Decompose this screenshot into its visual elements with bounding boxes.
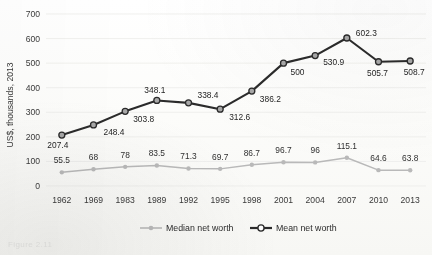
x-tick-label: 1969 bbox=[84, 195, 103, 205]
data-label: 248.4 bbox=[104, 127, 125, 137]
data-point bbox=[60, 170, 64, 174]
data-label: 207.4 bbox=[47, 140, 68, 150]
data-label: 96.7 bbox=[275, 145, 292, 155]
data-label: 348.1 bbox=[144, 85, 165, 95]
data-label: 71.3 bbox=[180, 151, 197, 161]
series-mean-net-worth bbox=[59, 35, 413, 138]
figure-caption: Figure 2.11 bbox=[8, 240, 52, 249]
data-label: 96 bbox=[311, 145, 321, 155]
data-point bbox=[122, 108, 128, 114]
x-tick-label: 1998 bbox=[242, 195, 261, 205]
data-label: 505.7 bbox=[367, 68, 388, 78]
x-tick-label: 2010 bbox=[369, 195, 388, 205]
data-point bbox=[312, 53, 318, 59]
x-tick-label: 1989 bbox=[147, 195, 166, 205]
data-point bbox=[407, 58, 413, 64]
data-point bbox=[313, 160, 317, 164]
data-point bbox=[344, 35, 350, 41]
data-point bbox=[281, 160, 285, 164]
data-point bbox=[154, 97, 160, 103]
y-axis-ticks: 0100200300400500600700 bbox=[26, 9, 41, 191]
y-tick-label: 0 bbox=[35, 181, 40, 191]
data-label: 83.5 bbox=[149, 148, 166, 158]
data-label: 500 bbox=[291, 67, 305, 77]
data-label: 55.5 bbox=[54, 155, 71, 165]
data-point bbox=[408, 168, 412, 172]
legend-label: Median net worth bbox=[166, 223, 234, 233]
data-label: 63.8 bbox=[402, 153, 419, 163]
data-point bbox=[91, 167, 95, 171]
legend-marker bbox=[258, 225, 264, 231]
x-tick-label: 2013 bbox=[401, 195, 420, 205]
data-point bbox=[155, 163, 159, 167]
x-tick-label: 1983 bbox=[116, 195, 135, 205]
y-tick-label: 500 bbox=[26, 58, 41, 68]
data-label: 508.7 bbox=[404, 67, 425, 77]
x-tick-label: 1992 bbox=[179, 195, 198, 205]
data-point bbox=[281, 60, 287, 66]
legend-marker bbox=[149, 226, 154, 231]
data-point bbox=[250, 162, 254, 166]
series-median-net-worth bbox=[60, 156, 413, 175]
data-label: 69.7 bbox=[212, 152, 229, 162]
data-point bbox=[186, 166, 190, 170]
chart-legend: Median net worthMean net worth bbox=[140, 223, 337, 233]
data-label: 86.7 bbox=[244, 148, 261, 158]
x-tick-label: 1962 bbox=[52, 195, 71, 205]
y-tick-label: 300 bbox=[26, 107, 41, 117]
data-point bbox=[217, 106, 223, 112]
data-label: 602.3 bbox=[356, 28, 377, 38]
legend-item[interactable]: Mean net worth bbox=[250, 223, 337, 233]
x-tick-label: 2004 bbox=[306, 195, 325, 205]
data-point bbox=[186, 100, 192, 106]
data-label: 338.4 bbox=[198, 90, 219, 100]
data-label: 64.6 bbox=[370, 153, 387, 163]
data-label: 78 bbox=[121, 150, 131, 160]
legend-item[interactable]: Median net worth bbox=[140, 223, 234, 233]
data-point bbox=[249, 88, 255, 94]
x-tick-label: 2001 bbox=[274, 195, 293, 205]
data-point bbox=[91, 122, 97, 128]
y-tick-label: 100 bbox=[26, 156, 41, 166]
x-tick-label: 1995 bbox=[211, 195, 230, 205]
x-tick-label: 2007 bbox=[337, 195, 356, 205]
data-point bbox=[218, 167, 222, 171]
data-label: 312.6 bbox=[229, 112, 250, 122]
data-point bbox=[376, 168, 380, 172]
data-point bbox=[123, 165, 127, 169]
y-tick-label: 600 bbox=[26, 34, 41, 44]
data-label: 303.8 bbox=[133, 114, 154, 124]
legend-label: Mean net worth bbox=[276, 223, 337, 233]
y-axis-title: US$, thousands, 2013 bbox=[5, 62, 15, 147]
y-tick-label: 200 bbox=[26, 132, 41, 142]
data-label: 68 bbox=[89, 152, 99, 162]
data-label: 115.1 bbox=[337, 141, 358, 151]
data-labels-mean: 207.4248.4303.8348.1338.4312.6386.250053… bbox=[47, 28, 425, 150]
y-tick-label: 400 bbox=[26, 83, 41, 93]
data-point bbox=[59, 132, 65, 138]
data-point bbox=[345, 156, 349, 160]
x-axis-ticks: 1962196919831989199219951998200120042007… bbox=[52, 195, 420, 205]
data-point bbox=[376, 59, 382, 65]
y-tick-label: 700 bbox=[26, 9, 41, 19]
line-chart: 0100200300400500600700 19621969198319891… bbox=[0, 0, 432, 255]
chart-canvas: 0100200300400500600700 19621969198319891… bbox=[0, 0, 432, 255]
data-label: 530.9 bbox=[323, 57, 344, 67]
data-label: 386.2 bbox=[260, 94, 281, 104]
figure-container: 0100200300400500600700 19621969198319891… bbox=[0, 0, 432, 255]
